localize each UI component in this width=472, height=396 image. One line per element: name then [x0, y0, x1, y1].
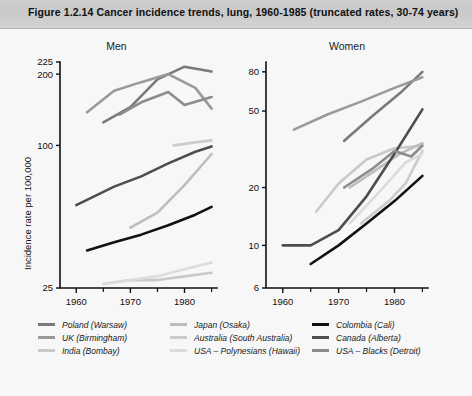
- legend-item: Japan (Osaka): [170, 318, 335, 331]
- y-tick-label: 20: [248, 182, 259, 193]
- x-tick-label: 1980: [174, 296, 195, 307]
- legend-swatch: [170, 323, 187, 327]
- legend-label: Colombia (Cali): [336, 320, 395, 330]
- series-line: [130, 154, 211, 228]
- x-tick-label: 1970: [328, 296, 349, 307]
- legend-label: UK (Birmingham): [62, 333, 127, 343]
- legend-column-2: Japan (Osaka)Australia (South Australia)…: [170, 318, 335, 357]
- series-line: [283, 109, 423, 245]
- figure-title: Figure 1.2.14 Cancer incidence trends, l…: [28, 6, 458, 18]
- legend-label: India (Bombay): [62, 346, 120, 356]
- x-tick-label: 1970: [120, 296, 141, 307]
- y-tick-label: 100: [37, 140, 53, 151]
- series-line: [174, 140, 212, 145]
- legend: Poland (Warsaw)UK (Birmingham)India (Bom…: [0, 318, 472, 374]
- legend-item: India (Bombay): [38, 344, 178, 357]
- legend-item: Poland (Warsaw): [38, 318, 178, 331]
- legend-item: UK (Birmingham): [38, 331, 178, 344]
- y-tick-label: 10: [248, 240, 259, 251]
- legend-label: Poland (Warsaw): [62, 320, 127, 330]
- series-line: [87, 207, 212, 251]
- legend-swatch: [38, 336, 55, 340]
- x-tick-label: 1960: [66, 296, 87, 307]
- legend-swatch: [312, 336, 329, 340]
- legend-item: Australia (South Australia): [170, 331, 335, 344]
- legend-label: USA – Polynesians (Hawaii): [194, 346, 300, 356]
- y-tick-label: 80: [248, 66, 259, 77]
- y-tick-label: 50: [248, 105, 259, 116]
- legend-item: Canada (Alberta): [312, 331, 472, 344]
- legend-label: Australia (South Australia): [194, 333, 292, 343]
- legend-item: USA – Blacks (Detroit): [312, 344, 472, 357]
- legend-swatch: [38, 349, 55, 353]
- legend-label: Japan (Osaka): [194, 320, 250, 330]
- x-tick-label: 1980: [384, 296, 405, 307]
- panel-men: Men Incidence rate per 100,000 251002002…: [14, 40, 219, 310]
- x-tick-label: 1960: [272, 296, 293, 307]
- legend-label: USA – Blacks (Detroit): [336, 346, 421, 356]
- legend-swatch: [170, 349, 187, 353]
- series-line: [87, 74, 212, 112]
- legend-swatch: [312, 323, 329, 327]
- legend-item: USA – Polynesians (Hawaii): [170, 344, 335, 357]
- legend-swatch: [38, 323, 55, 327]
- y-tick-label: 6: [254, 282, 259, 293]
- series-line: [294, 77, 422, 129]
- men-plot-svg: 25100200225196019701980: [14, 40, 219, 310]
- series-line: [361, 151, 422, 224]
- y-tick-label: 25: [42, 282, 53, 293]
- y-tick-label: 200: [37, 69, 53, 80]
- y-tick-label: 225: [37, 56, 53, 67]
- legend-label: Canada (Alberta): [336, 333, 401, 343]
- legend-column-3: Colombia (Cali)Canada (Alberta)USA – Bla…: [312, 318, 472, 357]
- figure-container: Figure 1.2.14 Cancer incidence trends, l…: [0, 0, 472, 396]
- legend-swatch: [312, 349, 329, 353]
- panel-women: Women 610205080196019701980: [232, 40, 462, 310]
- women-plot-svg: 610205080196019701980: [232, 40, 462, 310]
- legend-item: Colombia (Cali): [312, 318, 472, 331]
- legend-column-1: Poland (Warsaw)UK (Birmingham)India (Bom…: [38, 318, 178, 357]
- figure-title-band: Figure 1.2.14 Cancer incidence trends, l…: [0, 0, 472, 29]
- legend-swatch: [170, 336, 187, 340]
